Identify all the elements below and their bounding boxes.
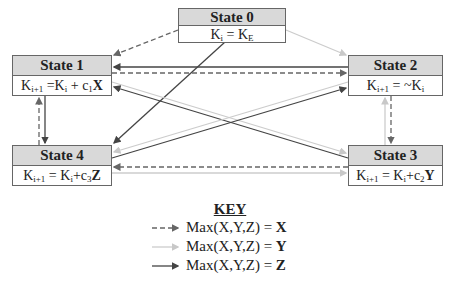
arrow-s2-s4: [114, 82, 348, 152]
legend-item-y: Max(X,Y,Z) = Y: [150, 237, 310, 256]
state-2-title: State 2: [349, 56, 442, 76]
light-arrow-icon: [152, 242, 182, 252]
legend-title: KEY: [150, 200, 310, 218]
legend-item-z: Max(X,Y,Z) = Z: [150, 256, 310, 275]
solid-arrow-icon: [152, 261, 182, 271]
state-1-box: State 1 Ki+1 =Ki + c1X: [12, 55, 112, 96]
state-4-formula: Ki+1 = Ki+c3Z: [13, 166, 111, 186]
state-0-formula: Ki = KE: [179, 26, 285, 43]
arrow-s0-s1: [114, 30, 178, 55]
state-0-box: State 0 Ki = KE: [178, 8, 286, 43]
state-4-title: State 4: [13, 146, 111, 166]
arrow-s4-s2: [112, 88, 346, 158]
state-3-formula: Ki+1 = Ki+c2Y: [349, 166, 442, 186]
state-2-box: State 2 Ki+1 = ~Ki: [348, 55, 443, 96]
state-0-title: State 0: [179, 9, 285, 26]
state-2-formula: Ki+1 = ~Ki: [349, 76, 442, 96]
state-4-box: State 4 Ki+1 = Ki+c3Z: [12, 145, 112, 186]
state-1-title: State 1: [13, 56, 111, 76]
dashed-arrow-icon: [152, 223, 182, 233]
legend-item-x: Max(X,Y,Z) = X: [150, 218, 310, 237]
state-3-box: State 3 Ki+1 = Ki+c2Y: [348, 145, 443, 186]
state-3-title: State 3: [349, 146, 442, 166]
state-1-formula: Ki+1 =Ki + c1X: [13, 76, 111, 96]
legend: KEY Max(X,Y,Z) = X Max(X,Y,Z) = Y Max(X,…: [150, 200, 310, 275]
arrow-s0-s2: [286, 30, 346, 55]
